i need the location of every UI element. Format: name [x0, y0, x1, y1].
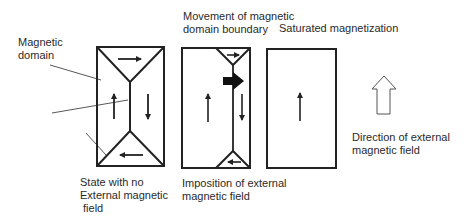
panel-no-field: [97, 47, 164, 166]
leader-lines: [50, 65, 128, 155]
leader-line-domain: [50, 65, 101, 80]
specimen-rect: [267, 49, 336, 168]
label-saturated: Saturated magnetization: [279, 22, 398, 35]
panel-field-imposed: [182, 48, 250, 168]
label-movement-boundary: Movement of magnetic domain boundary: [183, 10, 294, 36]
leader-line-boundary: [52, 100, 128, 113]
panel-saturated: [267, 49, 336, 168]
label-magnetic-domain: Magnetic domain: [18, 36, 63, 62]
top-closure-domain: [97, 47, 164, 82]
bottom-closure-domain: [216, 151, 250, 168]
specimen-rect: [182, 48, 250, 168]
label-field-direction: Direction of external magnetic field: [352, 131, 450, 157]
label-state-no-field: State with no External magnetic field: [80, 176, 168, 215]
external-field-arrow-icon: [372, 76, 396, 114]
top-closure-domain: [216, 48, 250, 65]
bottom-closure-domain: [97, 131, 164, 166]
boundary-movement-arrow-icon: [223, 72, 244, 90]
label-imposition: Imposition of external magnetic field: [182, 177, 287, 203]
